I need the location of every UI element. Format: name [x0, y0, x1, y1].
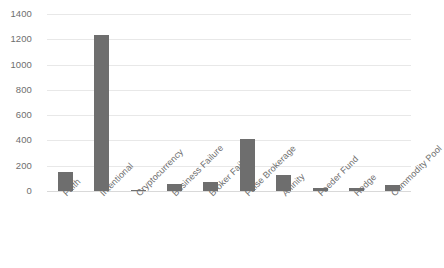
y-axis-tick-label: 200: [0, 161, 32, 171]
y-axis-tick-label: 0: [0, 186, 32, 196]
y-axis-tick-label: 400: [0, 136, 32, 146]
gridline: [47, 14, 411, 15]
y-axis-tick-label: 1400: [0, 9, 32, 19]
bar: [94, 35, 109, 191]
y-axis-tick-label: 1000: [0, 60, 32, 70]
y-axis-tick-label: 600: [0, 110, 32, 120]
y-axis-tick-label: 800: [0, 85, 32, 95]
y-axis-tick-label: 1200: [0, 35, 32, 45]
x-axis-labels: FaithIntentionalCryptocurrencyBusiness F…: [47, 191, 411, 268]
